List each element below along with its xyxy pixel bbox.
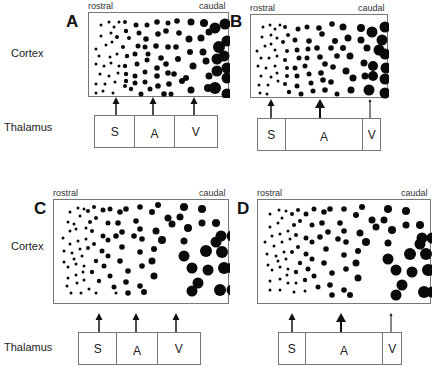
- cell-dot: [264, 45, 267, 48]
- projection-arrow-icon: [285, 312, 299, 332]
- cell-dot: [279, 24, 282, 27]
- cell-dot: [281, 241, 284, 244]
- cell-dot: [115, 35, 119, 39]
- cell-dot: [105, 44, 108, 47]
- cell-dot: [219, 51, 230, 62]
- panel-letter: B: [230, 13, 242, 30]
- cell-dot: [137, 283, 143, 289]
- cell-dot: [143, 80, 148, 85]
- cell-dot: [151, 246, 157, 252]
- cell-dot: [123, 206, 129, 212]
- cell-dot: [102, 90, 105, 93]
- cell-dot: [287, 230, 290, 233]
- cell-dot: [307, 72, 312, 77]
- cell-dot: [343, 239, 349, 245]
- cell-dot: [153, 43, 159, 49]
- cell-dot: [328, 79, 334, 85]
- cell-dot: [179, 251, 190, 262]
- cell-dot: [292, 223, 296, 227]
- cell-dot: [83, 265, 86, 268]
- cell-dot: [330, 64, 336, 70]
- cell-dot: [306, 47, 311, 52]
- cell-dot: [69, 230, 72, 233]
- cell-dot: [343, 266, 349, 272]
- cell-dot: [347, 53, 354, 60]
- cell-dot: [362, 238, 370, 246]
- cell-dot: [115, 220, 121, 226]
- cell-dot: [287, 268, 290, 271]
- cell-dot: [124, 72, 128, 76]
- thalamus-nucleus-a: A: [135, 116, 174, 147]
- cell-dot: [104, 83, 107, 86]
- cell-dot: [187, 49, 193, 55]
- projection-arrow-icon: [92, 312, 106, 332]
- cell-dot: [106, 254, 111, 259]
- cell-dot: [383, 254, 394, 265]
- cell-dot: [62, 237, 65, 240]
- cell-dot: [285, 66, 289, 70]
- cell-dot: [391, 265, 402, 276]
- projection-arrow-icon: [384, 312, 398, 332]
- projection-arrow-icon: [187, 96, 201, 115]
- cell-dot: [295, 282, 298, 285]
- cell-dot: [276, 37, 279, 40]
- cell-dot: [314, 45, 320, 51]
- cell-dot: [318, 70, 324, 76]
- cell-dot: [271, 235, 274, 238]
- nucleus-label: V: [175, 342, 183, 356]
- cell-dot: [417, 233, 428, 244]
- cell-dot: [123, 279, 129, 285]
- cell-dot: [298, 219, 302, 223]
- rostral-label: rostral: [250, 3, 275, 13]
- cell-dot: [368, 71, 378, 81]
- cell-dot: [304, 212, 309, 217]
- cell-dot: [133, 218, 139, 224]
- thalamus-nucleus-v: V: [175, 116, 217, 147]
- cell-dot: [125, 268, 131, 274]
- cell-dot: [100, 249, 105, 254]
- thalamus-nuclei-box: SAV: [94, 115, 218, 148]
- cell-dot: [121, 45, 125, 49]
- cell-dot: [295, 74, 300, 79]
- cell-dot: [303, 64, 308, 69]
- cell-dot: [112, 285, 117, 290]
- cell-dot: [397, 280, 408, 291]
- cell-dot: [63, 250, 66, 253]
- cell-dot: [173, 44, 179, 50]
- cell-dot: [303, 278, 307, 282]
- cell-dot: [269, 213, 272, 216]
- cell-dot: [95, 48, 98, 51]
- cell-dot: [86, 246, 90, 250]
- cell-dot: [99, 73, 102, 76]
- cell-dot: [380, 74, 390, 85]
- cell-dot: [94, 259, 98, 263]
- cell-dot: [358, 37, 365, 44]
- cell-dot: [260, 75, 263, 78]
- cell-dot: [70, 292, 73, 295]
- cell-dot: [296, 208, 300, 212]
- cell-dot: [146, 52, 151, 57]
- cell-dot: [110, 62, 113, 65]
- projection-arrow-icon: [363, 98, 377, 118]
- cortex-map-box: [257, 199, 431, 304]
- cell-dot: [154, 65, 160, 71]
- cell-dot: [155, 83, 161, 89]
- thalamus-nuclei-box: SAV: [278, 332, 402, 365]
- cell-dot: [348, 87, 355, 94]
- cell-dot: [210, 23, 221, 34]
- cell-dot: [100, 24, 103, 27]
- cell-dot: [274, 65, 277, 68]
- cell-dot: [145, 58, 150, 63]
- cell-dot: [304, 290, 307, 293]
- cell-dot: [335, 236, 341, 242]
- cell-dot: [113, 26, 116, 29]
- cell-dot: [265, 67, 268, 70]
- cell-dot: [340, 45, 346, 51]
- cell-dot: [340, 24, 347, 31]
- cortex-label: Cortex: [11, 47, 43, 59]
- cell-dot: [75, 228, 78, 231]
- nucleus-label: A: [133, 344, 141, 358]
- cell-dot: [92, 205, 96, 209]
- cell-dot: [290, 250, 294, 254]
- cell-dot: [322, 61, 328, 67]
